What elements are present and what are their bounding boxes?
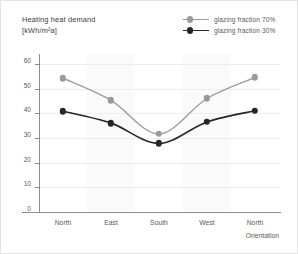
legend-item-0[interactable]: glazing fraction 70% <box>183 14 275 25</box>
x-tick-label: North <box>247 219 264 226</box>
y-tick-label-wrap: 20 <box>9 163 31 170</box>
y-tick-label-wrap: 60 <box>9 64 31 71</box>
y-tick-label: 0 <box>9 205 31 212</box>
legend-item-1[interactable]: glazing fraction 30% <box>183 25 275 36</box>
x-tick-label: North <box>55 219 72 226</box>
x-tick-label: West <box>199 219 214 226</box>
chart-legend: glazing fraction 70% glazing fraction 30… <box>183 14 275 36</box>
x-tick-label: East <box>104 219 118 226</box>
y-tick-label-wrap: 30 <box>9 138 31 145</box>
y-tick-label: 50 <box>9 81 31 88</box>
y-tick-label: 40 <box>9 106 31 113</box>
y-tick-label: 20 <box>9 155 31 162</box>
plot-area <box>39 54 279 212</box>
chart-title-unit: [kWh/m²a] <box>22 26 57 35</box>
y-tick <box>35 212 39 213</box>
x-axis-title: Orientation <box>246 232 279 239</box>
y-tick-label: 30 <box>9 130 31 137</box>
legend-label-0: glazing fraction 70% <box>214 16 275 23</box>
y-tick-label-wrap: 40 <box>9 113 31 120</box>
chart-figure: Heating heat demand [kWh/m²a] glazing fr… <box>0 0 298 254</box>
legend-label-1: glazing fraction 30% <box>214 27 275 34</box>
series-line <box>63 77 255 134</box>
chart-title: Heating heat demand <box>22 15 96 24</box>
series-line <box>63 111 255 144</box>
x-tick-label: South <box>150 219 168 226</box>
y-tick-label-wrap: 10 <box>9 187 31 194</box>
x-axis-line <box>22 212 281 213</box>
legend-marker-icon-1 <box>183 26 209 35</box>
y-tick-label-wrap: 50 <box>9 89 31 96</box>
y-tick-label-wrap: 0 <box>9 212 31 219</box>
legend-marker-icon-0 <box>183 15 209 24</box>
y-tick-label: 60 <box>9 56 31 63</box>
y-tick-label: 10 <box>9 180 31 187</box>
